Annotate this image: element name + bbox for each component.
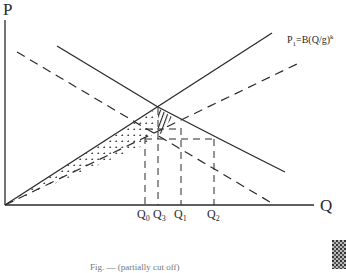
- legend-swatch: [332, 240, 346, 269]
- q0-label: Q0: [137, 207, 150, 223]
- q-main: Q: [153, 207, 162, 221]
- q-sub: 1: [183, 214, 187, 223]
- supply-curve-solid: [5, 33, 272, 205]
- q-sub: 0: [146, 214, 150, 223]
- q1-label: Q1: [174, 207, 187, 223]
- q-sub: 3: [162, 214, 166, 223]
- q2-label: Q2: [207, 207, 220, 223]
- q-main: Q: [137, 207, 146, 221]
- figure-caption: Fig. — (partially cut off): [90, 262, 180, 272]
- label-rest: =B(Q/g): [296, 34, 330, 45]
- label-sup: k: [330, 33, 334, 41]
- hatched-region: [158, 108, 172, 135]
- q3-label: Q3: [153, 207, 166, 223]
- y-axis-label: P: [3, 0, 12, 20]
- q-sub: 2: [216, 214, 220, 223]
- supply-curve-label: P1=B(Q/g)k: [287, 33, 334, 48]
- x-axis-label: Q: [320, 196, 332, 216]
- q-main: Q: [207, 207, 216, 221]
- q-main: Q: [174, 207, 183, 221]
